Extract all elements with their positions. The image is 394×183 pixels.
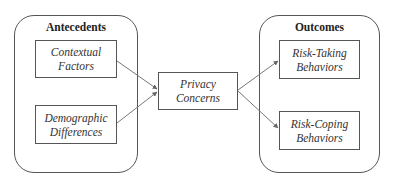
node-label-line2: Factors [58, 59, 94, 73]
node-label-line1: Risk-Taking [292, 46, 347, 60]
diagram-canvas: Antecedents Outcomes Contextual Factors … [0, 0, 394, 183]
node-label-line1: Contextual [51, 45, 101, 59]
node-label-line2: Behaviors [296, 131, 343, 145]
node-label-line1: Demographic [44, 111, 107, 125]
risk-coping-behaviors-node: Risk-Coping Behaviors [279, 111, 360, 150]
antecedents-group: Antecedents [14, 15, 138, 173]
node-label-line2: Behaviors [296, 60, 343, 74]
node-label-line1: Privacy [180, 77, 216, 91]
antecedents-title: Antecedents [15, 21, 137, 33]
node-label-line1: Risk-Coping [291, 117, 349, 131]
privacy-concerns-node: Privacy Concerns [158, 72, 238, 110]
outcomes-title: Outcomes [260, 21, 379, 33]
node-label-line2: Concerns [176, 91, 220, 105]
node-label-line2: Differences [50, 125, 103, 139]
demographic-differences-node: Demographic Differences [35, 105, 117, 144]
contextual-factors-node: Contextual Factors [35, 40, 117, 78]
risk-taking-behaviors-node: Risk-Taking Behaviors [279, 40, 360, 79]
